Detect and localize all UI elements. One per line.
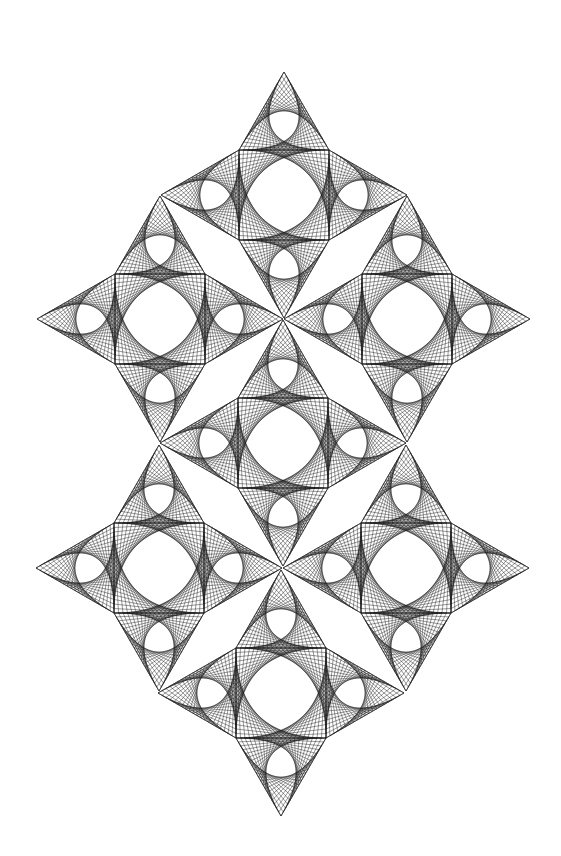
artwork-canvas	[0, 0, 561, 856]
background	[0, 0, 561, 856]
string-art-pattern	[0, 0, 561, 856]
